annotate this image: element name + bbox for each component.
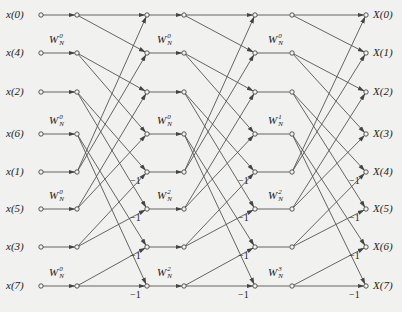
input-label: x(4) xyxy=(6,46,24,58)
twiddle-factor-label: W0N xyxy=(49,114,64,128)
butterfly-node xyxy=(364,207,368,211)
output-label: X(0) xyxy=(373,8,393,20)
input-label: x(2) xyxy=(6,85,24,97)
stage3-butterfly-line xyxy=(292,53,364,132)
butterfly-node xyxy=(75,90,79,94)
butterfly-node xyxy=(290,13,294,17)
stage3-butterfly-line xyxy=(292,94,365,209)
stage3-butterfly-line xyxy=(292,15,364,52)
stage2-butterfly-line xyxy=(184,15,253,52)
butterfly-node xyxy=(364,132,368,136)
input-label: x(3) xyxy=(6,240,24,252)
stage2-butterfly-line xyxy=(184,136,253,209)
stage2-butterfly-line xyxy=(184,53,253,91)
input-node xyxy=(39,170,43,174)
butterfly-node xyxy=(145,90,149,94)
stage1-butterfly-line xyxy=(77,15,145,52)
butterfly-node xyxy=(364,284,368,288)
butterfly-node xyxy=(182,13,186,17)
butterfly-node xyxy=(75,207,79,211)
output-label: X(5) xyxy=(373,202,393,214)
input-label: x(0) xyxy=(6,8,24,20)
butterfly-node xyxy=(253,13,257,17)
stage2-butterfly-line xyxy=(184,55,254,172)
butterfly-node xyxy=(290,170,294,174)
butterfly-node xyxy=(145,284,149,288)
stage3-butterfly-line xyxy=(292,134,365,284)
input-label: x(7) xyxy=(6,279,24,291)
butterfly-node xyxy=(364,170,368,174)
output-label: X(6) xyxy=(373,240,393,252)
output-label: X(7) xyxy=(373,279,393,291)
minus-one-label: −1 xyxy=(238,250,249,261)
twiddle-factor-label: W0N xyxy=(157,33,172,47)
stage2-butterfly-line xyxy=(184,92,253,170)
butterfly-node xyxy=(182,132,186,136)
twiddle-factor-label: W0N xyxy=(49,266,64,280)
minus-one-label: −1 xyxy=(349,250,360,261)
stage3-butterfly-line xyxy=(292,92,364,170)
butterfly-node xyxy=(290,284,294,288)
butterfly-node xyxy=(75,284,79,288)
butterfly-node xyxy=(145,13,149,17)
butterfly-node xyxy=(145,170,149,174)
output-label: X(3) xyxy=(373,127,393,139)
minus-one-label: −1 xyxy=(349,175,360,186)
minus-one-label: −1 xyxy=(238,289,249,300)
butterfly-node xyxy=(182,207,186,211)
minus-one-label: −1 xyxy=(130,289,141,300)
butterfly-node xyxy=(182,284,186,288)
stage3-butterfly-line xyxy=(292,136,364,209)
output-label: X(2) xyxy=(373,85,393,97)
butterfly-node xyxy=(253,170,257,174)
input-label: x(6) xyxy=(6,127,24,139)
butterfly-node xyxy=(145,245,149,249)
minus-one-label: −1 xyxy=(130,175,141,186)
butterfly-node xyxy=(290,51,294,55)
input-node xyxy=(39,207,43,211)
input-node xyxy=(39,13,43,17)
butterfly-node xyxy=(75,132,79,136)
minus-one-label: −1 xyxy=(238,175,249,186)
butterfly-node xyxy=(75,13,79,17)
input-label: x(5) xyxy=(6,202,24,214)
minus-one-label: −1 xyxy=(238,212,249,223)
twiddle-factor-label: W2N xyxy=(157,266,172,280)
twiddle-factor-label: W1N xyxy=(268,114,283,128)
output-label: X(4) xyxy=(373,165,393,177)
butterfly-node xyxy=(253,90,257,94)
input-label: x(1) xyxy=(6,165,24,177)
input-node xyxy=(39,132,43,136)
butterfly-node xyxy=(75,51,79,55)
twiddle-factor-label: W0N xyxy=(49,33,64,47)
butterfly-node xyxy=(182,170,186,174)
butterfly-node xyxy=(364,51,368,55)
butterfly-node xyxy=(364,13,368,17)
stage2-butterfly-line xyxy=(184,53,253,132)
butterfly-node xyxy=(145,51,149,55)
butterfly-node xyxy=(364,90,368,94)
twiddle-factor-label: W2N xyxy=(268,189,283,203)
output-label: X(1) xyxy=(373,46,393,58)
stage3-butterfly-line xyxy=(292,53,364,91)
twiddle-factor-label: W0N xyxy=(49,189,64,203)
stage1-butterfly-line xyxy=(77,53,145,91)
butterfly-node xyxy=(145,132,149,136)
butterfly-node xyxy=(290,245,294,249)
butterfly-node xyxy=(75,245,79,249)
butterfly-node xyxy=(182,245,186,249)
twiddle-factor-label: W2N xyxy=(157,189,172,203)
butterfly-node xyxy=(364,245,368,249)
input-node xyxy=(39,245,43,249)
stage2-butterfly-line xyxy=(184,134,254,284)
stage1-butterfly-line xyxy=(77,136,145,209)
twiddle-factor-label: W0N xyxy=(268,33,283,47)
minus-one-label: −1 xyxy=(130,250,141,261)
butterfly-node xyxy=(253,207,257,211)
butterfly-node xyxy=(253,245,257,249)
butterfly-node xyxy=(253,132,257,136)
input-node xyxy=(39,284,43,288)
butterfly-node xyxy=(182,51,186,55)
butterfly-node xyxy=(182,90,186,94)
stage2-butterfly-line xyxy=(184,94,254,209)
